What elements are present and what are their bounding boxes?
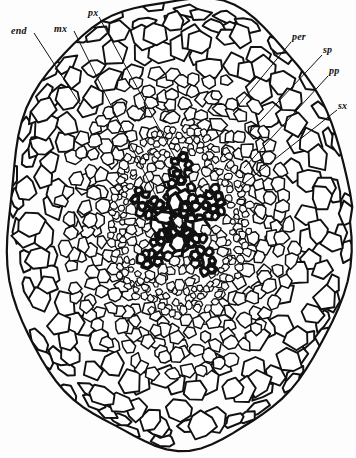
cell-outer-cortex bbox=[47, 313, 70, 335]
cell-inner-cortex bbox=[254, 250, 265, 262]
cell-stele bbox=[185, 277, 195, 286]
cell-inner-cortex bbox=[236, 312, 251, 328]
cell-pericycle bbox=[120, 212, 127, 218]
cell-pericycle bbox=[124, 256, 129, 263]
cell-inner-cortex bbox=[272, 264, 283, 277]
cell-stele bbox=[187, 183, 195, 191]
cell-endodermis bbox=[236, 255, 244, 264]
label-pp: pp bbox=[329, 66, 339, 76]
cell-endodermis bbox=[133, 287, 139, 292]
cell-stele bbox=[201, 267, 210, 276]
cell-pericycle bbox=[183, 287, 189, 296]
cell-stele bbox=[150, 239, 157, 246]
cell-stele bbox=[138, 203, 146, 211]
cell-stele bbox=[159, 230, 166, 238]
cell-inner-cortex bbox=[262, 151, 276, 164]
cell-endodermis bbox=[107, 238, 116, 247]
cell-stele bbox=[216, 237, 227, 247]
cell-inner-cortex bbox=[194, 110, 207, 121]
cell-endodermis bbox=[246, 228, 252, 235]
cell-inner-cortex bbox=[211, 91, 222, 100]
cell-stele bbox=[199, 234, 207, 243]
cell-endodermis bbox=[222, 282, 229, 290]
cell-pericycle bbox=[134, 271, 141, 277]
cell-inner-cortex bbox=[274, 231, 290, 244]
cell-inner-cortex bbox=[112, 133, 127, 146]
cell-inner-cortex bbox=[221, 75, 233, 85]
cell-inner-cortex bbox=[202, 75, 216, 89]
cell-inner-cortex bbox=[275, 200, 289, 213]
cell-endodermis bbox=[245, 201, 254, 208]
cell-endodermis bbox=[136, 146, 143, 155]
cell-stele bbox=[182, 203, 189, 211]
cell-endodermis bbox=[131, 293, 140, 300]
cell-inner-cortex bbox=[107, 288, 122, 302]
cell-stele bbox=[150, 197, 158, 205]
cell-stele bbox=[131, 196, 139, 204]
cell-stele bbox=[155, 161, 166, 169]
cell-stele bbox=[209, 257, 215, 264]
cell-outer-cortex bbox=[163, 11, 184, 31]
cell-inner-cortex bbox=[233, 131, 245, 142]
cell-inner-cortex bbox=[195, 365, 207, 377]
cell-inner-cortex bbox=[264, 192, 277, 205]
cell-stele bbox=[174, 279, 185, 290]
cell-pericycle bbox=[126, 183, 134, 189]
label-mx: mx bbox=[54, 24, 67, 34]
cell-inner-cortex bbox=[97, 236, 107, 249]
cell-endodermis bbox=[236, 199, 244, 205]
cell-pericycle bbox=[230, 229, 236, 235]
cell-pericycle bbox=[196, 148, 204, 154]
cell-outer-cortex bbox=[25, 248, 50, 269]
cell-inner-cortex bbox=[213, 356, 225, 369]
cell-stele bbox=[156, 274, 166, 285]
cell-stele bbox=[179, 153, 187, 161]
cell-inner-cortex bbox=[158, 350, 170, 363]
cell-stele bbox=[169, 256, 180, 266]
cell-endodermis bbox=[211, 299, 219, 305]
cell-endodermis bbox=[204, 305, 211, 313]
cell-outer-cortex bbox=[16, 176, 37, 200]
cell-inner-cortex bbox=[113, 102, 126, 117]
cell-pericycle bbox=[191, 286, 197, 292]
cell-outer-cortex bbox=[119, 369, 140, 393]
label-sx: sx bbox=[338, 101, 347, 111]
cell-inner-cortex bbox=[188, 73, 199, 86]
cell-inner-cortex bbox=[165, 89, 178, 100]
cell-outer-cortex bbox=[89, 385, 114, 406]
cell-pericycle bbox=[143, 154, 149, 160]
cell-pericycle bbox=[223, 257, 229, 264]
cell-inner-cortex bbox=[183, 327, 196, 339]
label-px: px bbox=[88, 8, 98, 18]
anatomy-drawing bbox=[0, 0, 356, 458]
cell-endodermis bbox=[116, 272, 123, 279]
cell-inner-cortex bbox=[273, 244, 285, 257]
cell-pericycle bbox=[122, 247, 129, 254]
cell-inner-cortex bbox=[268, 295, 281, 310]
cell-inner-cortex bbox=[190, 344, 204, 356]
cell-pericycle bbox=[227, 186, 234, 193]
cell-endodermis bbox=[108, 209, 116, 215]
cell-stele bbox=[137, 253, 146, 264]
label-end: end bbox=[11, 26, 27, 36]
cell-outer-cortex bbox=[188, 31, 212, 54]
cell-stele bbox=[145, 210, 152, 219]
label-sp: sp bbox=[323, 45, 332, 55]
cell-inner-cortex bbox=[224, 353, 239, 367]
label-per: per bbox=[292, 32, 306, 42]
cell-pericycle bbox=[189, 149, 196, 156]
cell-inner-cortex bbox=[129, 77, 143, 89]
cell-pericycle bbox=[128, 267, 134, 272]
cell-endodermis bbox=[235, 264, 243, 272]
cell-endodermis bbox=[212, 156, 219, 163]
cell-endodermis bbox=[211, 146, 220, 152]
cell-stele bbox=[202, 202, 209, 209]
cell-epidermis bbox=[190, 9, 212, 20]
cell-inner-cortex bbox=[85, 265, 99, 278]
cell-outer-cortex bbox=[109, 20, 130, 42]
cell-endodermis bbox=[119, 160, 128, 170]
cell-endodermis bbox=[197, 294, 205, 300]
cell-stele bbox=[205, 248, 213, 256]
cell-inner-cortex bbox=[75, 131, 90, 146]
cell-pericycle bbox=[129, 259, 135, 265]
